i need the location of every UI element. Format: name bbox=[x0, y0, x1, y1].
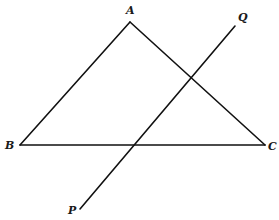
label-c: C bbox=[268, 140, 277, 153]
triangle-diagram: A B C P Q bbox=[0, 0, 279, 220]
label-p: P bbox=[67, 204, 77, 217]
label-b: B bbox=[4, 139, 14, 152]
label-q: Q bbox=[238, 11, 248, 24]
line-pq bbox=[80, 26, 235, 209]
segment-ab bbox=[20, 22, 130, 145]
label-a: A bbox=[125, 4, 135, 17]
